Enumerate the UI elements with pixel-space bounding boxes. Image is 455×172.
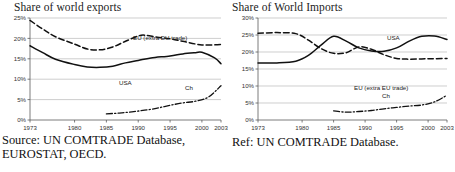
svg-text:2000: 2000 [421,124,435,131]
svg-text:15%: 15% [242,65,255,72]
svg-text:EU (extra EU trade): EU (extra EU trade) [133,34,187,41]
svg-text:20%: 20% [14,35,27,42]
svg-text:1985: 1985 [100,124,114,131]
caption-exports: Source: UN COMTRADE Database, EUROSTAT, … [2,133,228,161]
svg-text:1990: 1990 [131,124,145,131]
svg-text:10%: 10% [242,82,255,89]
svg-text:1995: 1995 [390,124,404,131]
svg-text:2003: 2003 [440,124,454,131]
svg-text:5%: 5% [17,96,26,103]
svg-text:30%: 30% [242,14,255,21]
svg-text:5%: 5% [245,99,254,106]
svg-text:10%: 10% [14,75,27,82]
svg-text:2000: 2000 [195,124,209,131]
svg-text:USA: USA [387,34,401,41]
chart-title-exports: Share of world exports [14,1,121,13]
chart-panel-exports: Share of world exports 0%5%10%15%20%25%1… [0,0,228,172]
figure-container: Share of world exports 0%5%10%15%20%25%1… [0,0,455,172]
svg-text:0%: 0% [245,116,254,123]
svg-text:1973: 1973 [251,124,265,131]
svg-text:EU (extra EU trade): EU (extra EU trade) [354,84,408,91]
svg-text:20%: 20% [242,48,255,55]
svg-text:1973: 1973 [23,124,37,131]
plot-area-exports: 0%5%10%15%20%25%197319801985199019952000… [0,14,228,134]
svg-text:1995: 1995 [163,124,177,131]
caption-imports: Ref: UN COMTRADE Database. [232,135,452,149]
plot-area-imports: 0%5%10%15%20%25%30%197319801985199019952… [228,14,455,134]
svg-text:1980: 1980 [68,124,82,131]
svg-text:25%: 25% [242,31,255,38]
svg-text:Ch: Ch [185,84,193,91]
svg-text:USA: USA [119,79,133,86]
svg-text:1980: 1980 [295,124,309,131]
svg-text:15%: 15% [14,55,27,62]
svg-text:0%: 0% [17,116,26,123]
svg-text:1990: 1990 [358,124,372,131]
chart-svg-imports: 0%5%10%15%20%25%30%197319801985199019952… [228,14,455,134]
chart-svg-exports: 0%5%10%15%20%25%197319801985199019952000… [0,14,228,134]
svg-text:25%: 25% [14,14,27,21]
svg-text:1985: 1985 [327,124,341,131]
chart-panel-imports: Share of World Imports 0%5%10%15%20%25%3… [228,0,455,172]
chart-title-imports: Share of World Imports [232,1,343,13]
svg-text:Ch: Ch [382,92,390,99]
svg-text:2003: 2003 [214,124,228,131]
